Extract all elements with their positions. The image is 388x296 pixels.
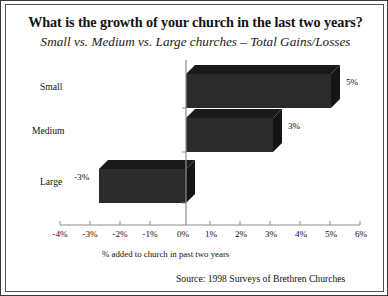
x-tick-label-2: -2%	[112, 229, 127, 239]
value-label-large: -3%	[74, 172, 89, 182]
chart-figure: What is the growth of your church in the…	[0, 0, 388, 296]
source-note: Source: 1998 Surveys of Brethren Churche…	[176, 273, 345, 284]
x-tick-label-3: -1%	[142, 229, 157, 239]
x-tick-label-9: 5%	[325, 229, 337, 239]
x-tick-label-5: 1%	[205, 229, 217, 239]
chart-title: What is the growth of your church in the…	[6, 14, 385, 31]
category-label-medium: Medium	[32, 125, 65, 136]
category-label-small: Small	[40, 81, 62, 92]
x-tick-label-10: 6%	[355, 229, 367, 239]
x-tick-label-8: 4%	[295, 229, 307, 239]
x-tick-label-1: -3%	[82, 229, 97, 239]
bar-small	[186, 65, 340, 108]
x-axis-title: % added to church in past two years	[102, 249, 229, 259]
value-label-medium: 3%	[288, 121, 300, 131]
x-tick-label-6: 2%	[235, 229, 247, 239]
x-tick-label-0: -4%	[52, 229, 67, 239]
chart-subtitle: Small vs. Medium vs. Large churches – To…	[6, 34, 385, 50]
bar-medium	[186, 109, 282, 152]
chart-inner-frame: What is the growth of your church in the…	[5, 4, 384, 292]
value-label-small: 5%	[346, 77, 358, 87]
x-tick-label-7: 3%	[265, 229, 277, 239]
plot-area: Small Medium Large 5% 3% -3% -4% -3% -2%…	[6, 53, 385, 293]
category-label-large: Large	[40, 176, 62, 187]
x-tick-label-4: 0%	[177, 229, 189, 239]
bar-large	[99, 160, 195, 203]
